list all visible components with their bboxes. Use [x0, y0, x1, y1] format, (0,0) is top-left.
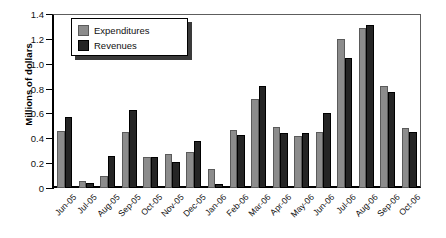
bar-expenditures-aug-05 [100, 176, 108, 188]
bar-group [269, 14, 291, 188]
bar-revenues-jan-06 [215, 184, 223, 188]
x-axis-tick-cell: Aug-05 [97, 190, 119, 238]
bar-revenues-jul-05 [86, 183, 94, 188]
x-axis-tick-cell: Jun-06 [312, 190, 334, 238]
bar-revenues-mar-06 [259, 86, 267, 188]
x-axis-tick-cell: Jul-06 [334, 190, 356, 238]
bar-group [355, 14, 377, 188]
bar-expenditures-oct-06 [402, 128, 410, 188]
x-axis-tick-label: Jan-06 [203, 192, 229, 218]
x-axis-tick-label: Dec-05 [181, 192, 208, 219]
x-axis-tick-cell: Sep-05 [119, 190, 141, 238]
y-axis-tick-label: 1.4 [2, 9, 44, 20]
legend-swatch-revenues-icon [78, 40, 89, 51]
x-axis-tick-label: Sep-06 [375, 192, 402, 219]
x-axis-tick-cell: Jan-06 [205, 190, 227, 238]
x-axis-tick-label: Oct-06 [397, 192, 422, 217]
y-axis-tick-label: 1.2 [2, 33, 44, 44]
x-axis-tick-cell: Apr-06 [269, 190, 291, 238]
x-axis-tick-label: Feb-06 [224, 192, 250, 218]
chart-legend: Expenditures Revenues [71, 18, 188, 56]
x-axis-tick-cell: May-06 [291, 190, 313, 238]
x-axis-tick-cell: Oct-06 [399, 190, 421, 238]
bar-group [399, 14, 421, 188]
legend-swatch-expenditures-icon [78, 25, 89, 36]
x-axis-tick-cell: Aug-06 [355, 190, 377, 238]
x-axis-tick-label: Sep-05 [116, 192, 143, 219]
bar-revenues-apr-06 [280, 133, 288, 188]
x-axis-tick-cell: Jul-05 [76, 190, 98, 238]
bar-group [248, 14, 270, 188]
x-axis-tick-cell: Mar-06 [248, 190, 270, 238]
bar-expenditures-jun-05 [57, 131, 65, 188]
x-axis-tick-label: Aug-05 [95, 192, 122, 219]
bar-expenditures-jul-05 [79, 181, 87, 188]
x-axis-tick-cell: Oct-05 [140, 190, 162, 238]
bar-revenues-dec-05 [194, 141, 202, 188]
y-axis-tick [46, 188, 54, 189]
bar-group [205, 14, 227, 188]
bar-revenues-may-06 [302, 133, 310, 188]
legend-label-expenditures: Expenditures [94, 25, 149, 36]
bar-expenditures-sep-06 [380, 86, 388, 188]
bar-expenditures-jan-06 [208, 169, 216, 188]
bar-expenditures-nov-05 [165, 154, 173, 188]
bar-revenues-oct-05 [151, 157, 159, 188]
bar-expenditures-mar-06 [251, 99, 259, 188]
y-axis-tick-label: 0.2 [2, 158, 44, 169]
bar-expenditures-jun-06 [316, 132, 324, 188]
x-axis-tick-cell: Feb-06 [226, 190, 248, 238]
bar-expenditures-apr-06 [273, 127, 281, 188]
x-axis-tick-label: Nov-05 [159, 192, 186, 219]
x-axis-tick-label: Mar-06 [246, 192, 272, 218]
y-axis-tick-label: 0.8 [2, 83, 44, 94]
bar-revenues-jul-06 [345, 58, 353, 189]
legend-item-expenditures: Expenditures [78, 23, 182, 38]
x-axis-tick-label: Jun-06 [311, 192, 337, 218]
y-axis-tick-label: 0 [2, 183, 44, 194]
bar-revenues-aug-06 [366, 25, 374, 188]
bar-expenditures-feb-06 [230, 130, 238, 188]
bar-revenues-jun-06 [323, 113, 331, 188]
bar-revenues-sep-05 [129, 110, 137, 188]
x-axis-tick-cell: Sep-06 [377, 190, 399, 238]
bar-expenditures-may-06 [294, 136, 302, 188]
y-axis-tick-label: 1.0 [2, 58, 44, 69]
bar-chart: Millions of dollars 00.20.40.60.81.01.21… [0, 0, 446, 238]
bar-expenditures-aug-06 [359, 28, 367, 188]
bar-group [291, 14, 313, 188]
bar-expenditures-oct-05 [143, 157, 151, 188]
bar-expenditures-jul-06 [337, 39, 345, 188]
bar-group [226, 14, 248, 188]
bar-group [312, 14, 334, 188]
y-axis-tick-label: 0.6 [2, 108, 44, 119]
x-axis-tick-labels: Jun-05Jul-05Aug-05Sep-05Oct-05Nov-05Dec-… [54, 190, 420, 238]
bar-revenues-sep-06 [388, 92, 396, 188]
bar-revenues-aug-05 [108, 156, 116, 188]
y-axis-tick-label: 0.4 [2, 133, 44, 144]
bar-expenditures-dec-05 [186, 152, 194, 188]
x-axis-tick-cell: Jun-05 [54, 190, 76, 238]
x-axis-tick-cell: Dec-05 [183, 190, 205, 238]
bar-group [334, 14, 356, 188]
legend-item-revenues: Revenues [78, 38, 182, 53]
bar-revenues-oct-06 [409, 132, 417, 188]
bar-revenues-jun-05 [65, 117, 73, 188]
bar-expenditures-sep-05 [122, 132, 130, 188]
bar-group [377, 14, 399, 188]
x-axis-tick-cell: Nov-05 [162, 190, 184, 238]
legend-label-revenues: Revenues [94, 40, 137, 51]
x-axis-tick-label: Aug-06 [353, 192, 380, 219]
bar-revenues-feb-06 [237, 135, 245, 188]
x-axis-tick-label: Jun-05 [52, 192, 78, 218]
bar-revenues-nov-05 [172, 162, 180, 188]
